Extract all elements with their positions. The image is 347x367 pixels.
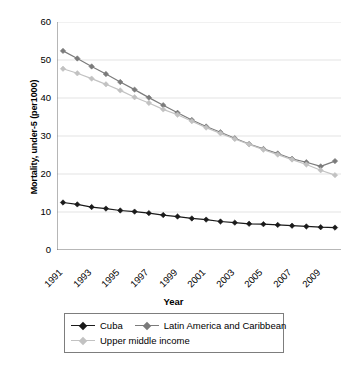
series-2-marker-1995 (118, 88, 123, 93)
x-tick-label-1991: 1991 (42, 267, 65, 290)
series-1-marker-1993 (89, 64, 94, 69)
series-1-marker-1996 (132, 87, 137, 92)
y-tick-label-10: 10 (31, 207, 51, 217)
x-tick-label-2007: 2007 (271, 267, 294, 290)
x-tick-label-1993: 1993 (70, 267, 93, 290)
legend-diamond-upper-middle-income (79, 336, 87, 344)
series-1-marker-2010 (332, 158, 337, 163)
y-tick-label-0: 0 (31, 245, 51, 255)
series-0-marker-2001 (203, 217, 208, 222)
series-0-marker-2004 (246, 221, 251, 226)
series-2-marker-2009 (318, 168, 323, 173)
legend-row-2: Upper middle income (71, 333, 277, 348)
series-0-marker-2006 (275, 222, 280, 227)
series-2-marker-1993 (89, 76, 94, 81)
series-line-0 (63, 203, 335, 228)
legend-item-latin-america-and-caribbean[interactable]: Latin America and Caribbean (135, 320, 287, 331)
series-0-marker-2005 (261, 221, 266, 226)
series-1-marker-1994 (103, 71, 108, 76)
series-1-marker-1991 (60, 48, 65, 53)
x-tick-label-2005: 2005 (242, 267, 265, 290)
chart-legend: Cuba Latin America and Caribbean Upper m… (64, 313, 284, 353)
series-0-marker-1993 (89, 204, 94, 209)
legend-item-cuba[interactable]: Cuba (71, 320, 123, 331)
series-0-marker-2002 (218, 219, 223, 224)
series-2-marker-2004 (246, 142, 251, 147)
y-axis-tick-labels: 0102030405060 (31, 22, 51, 250)
legend-item-upper-middle-income[interactable]: Upper middle income (71, 335, 190, 346)
x-axis-tick-labels: 1991199319951997199920012003200520072009 (57, 252, 347, 298)
series-0-marker-1991 (60, 200, 65, 205)
series-line-1 (63, 51, 335, 167)
y-tick-label-30: 30 (31, 131, 51, 141)
x-tick-label-2009: 2009 (299, 267, 322, 290)
series-2-marker-1996 (132, 95, 137, 100)
legend-label-upper-middle-income: Upper middle income (100, 335, 190, 346)
series-0-marker-1996 (132, 209, 137, 214)
y-tick-label-60: 60 (31, 17, 51, 27)
legend-marker-latin-america-icon (135, 321, 159, 331)
y-tick-label-50: 50 (31, 55, 51, 65)
x-axis-title: Year (0, 296, 347, 307)
series-0-marker-1994 (103, 206, 108, 211)
y-tick-label-20: 20 (31, 169, 51, 179)
series-0-marker-2009 (318, 225, 323, 230)
x-tick-label-2003: 2003 (214, 267, 237, 290)
legend-marker-cuba-icon (71, 321, 95, 331)
legend-row-1: Cuba Latin America and Caribbean (71, 318, 277, 333)
legend-diamond-cuba (79, 321, 87, 329)
legend-label-latin-america-and-caribbean: Latin America and Caribbean (164, 320, 287, 331)
x-tick-label-1999: 1999 (156, 267, 179, 290)
mortality-under5-line-chart: Mortality, under-5 (per1000) 01020304050… (0, 0, 347, 367)
legend-diamond-latin-america (142, 321, 150, 329)
x-tick-label-1997: 1997 (128, 267, 151, 290)
series-0-marker-1997 (146, 210, 151, 215)
series-2-marker-1992 (75, 71, 80, 76)
series-2-marker-1998 (161, 107, 166, 112)
plot-area (57, 22, 341, 250)
series-0-marker-2007 (289, 223, 294, 228)
x-tick-label-1995: 1995 (99, 267, 122, 290)
legend-marker-upper-middle-income-icon (71, 336, 95, 346)
series-0-marker-1992 (75, 202, 80, 207)
series-0-marker-2010 (332, 225, 337, 230)
series-0-marker-2003 (232, 220, 237, 225)
series-0-marker-2000 (189, 216, 194, 221)
series-2-marker-1997 (146, 100, 151, 105)
y-tick-label-40: 40 (31, 93, 51, 103)
x-tick-label-2001: 2001 (185, 267, 208, 290)
series-2-marker-1991 (60, 66, 65, 71)
series-0-marker-2008 (304, 224, 309, 229)
series-2-marker-2010 (332, 172, 337, 177)
plot-svg (57, 22, 341, 250)
series-0-marker-1998 (161, 212, 166, 217)
series-2-marker-1994 (103, 82, 108, 87)
series-1-marker-1997 (146, 95, 151, 100)
series-1-marker-1995 (118, 79, 123, 84)
legend-label-cuba: Cuba (100, 320, 123, 331)
series-0-marker-1999 (175, 214, 180, 219)
